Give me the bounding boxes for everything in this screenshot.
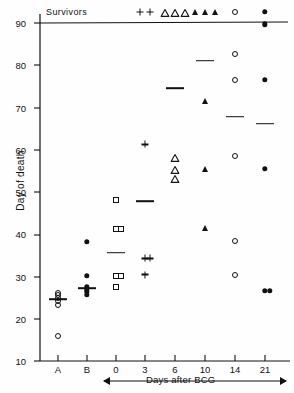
survivor-marker-6-1 — [171, 3, 180, 21]
y-tick-label: 70 — [2, 102, 26, 113]
data-point-A-5 — [55, 333, 61, 339]
y-tick-label: 20 — [2, 313, 26, 324]
data-point-0-5 — [113, 284, 119, 290]
y-tick-label: 10 — [2, 356, 26, 367]
data-point-14-4 — [232, 272, 238, 278]
data-point-0-2 — [118, 226, 124, 232]
figure-panel: Day of death 102030405060708090 AB036101… — [0, 0, 294, 393]
data-point-3-3 — [142, 271, 149, 278]
survivor-marker-6-0 — [161, 3, 170, 21]
median-bar-3 — [136, 200, 154, 202]
data-point-21-1 — [262, 77, 267, 82]
x-axis-title: Days after BCG — [146, 374, 215, 385]
survivors-divider-line — [40, 22, 288, 23]
data-point-14-1 — [232, 77, 238, 83]
x-tick-label-B: B — [84, 364, 90, 375]
data-point-10-0 — [202, 98, 208, 104]
survivor-marker-10-1 — [202, 9, 208, 15]
x-tick-label-14: 14 — [230, 364, 241, 375]
data-point-14-2 — [232, 153, 238, 159]
data-point-21-2 — [262, 166, 267, 171]
median-bar-14 — [226, 116, 244, 118]
median-bar-21 — [256, 123, 274, 125]
y-tick-label: 80 — [2, 60, 26, 71]
data-point-A-4 — [55, 302, 61, 308]
data-point-0-0 — [113, 197, 119, 203]
x-tick-label-21: 21 — [260, 364, 271, 375]
survivor-marker-10-0 — [192, 9, 198, 15]
y-tick-label: 90 — [2, 18, 26, 29]
survivors-label: Survivors — [46, 7, 87, 17]
data-point-3-2 — [147, 255, 154, 262]
survivor-marker-14-0 — [232, 9, 238, 15]
data-point-10-1 — [202, 166, 208, 172]
y-tick-label: 60 — [2, 144, 26, 155]
median-bar-0 — [107, 252, 125, 254]
survivor-marker-3-1 — [147, 9, 154, 16]
data-point-0-4 — [118, 273, 124, 279]
data-point-3-0 — [142, 141, 149, 148]
survivor-marker-6-2 — [181, 3, 190, 21]
data-point-B-0 — [84, 239, 89, 244]
y-tick-label: 50 — [2, 187, 26, 198]
median-bar-B — [78, 288, 96, 290]
y-tick-label: 30 — [2, 271, 26, 282]
data-point-B-5 — [84, 292, 89, 297]
x-tick-label-A: A — [55, 364, 61, 375]
data-point-21-4 — [267, 288, 272, 293]
data-point-B-1 — [84, 273, 89, 278]
survivor-marker-21-0 — [262, 9, 267, 14]
data-point-6-2 — [171, 169, 180, 187]
data-point-14-0 — [232, 51, 238, 57]
survivor-marker-10-2 — [212, 9, 218, 15]
data-point-21-0 — [262, 22, 267, 27]
y-tick-marks — [34, 23, 40, 361]
x-tick-label-0: 0 — [113, 364, 118, 375]
data-point-14-3 — [232, 238, 238, 244]
x-tick-marks — [58, 355, 265, 361]
median-bar-10 — [196, 60, 214, 62]
median-bar-6 — [166, 87, 184, 89]
survivor-marker-3-0 — [137, 9, 144, 16]
y-tick-label: 40 — [2, 229, 26, 240]
median-bar-A — [49, 299, 67, 301]
data-point-10-2 — [202, 225, 208, 231]
axes-svg — [0, 0, 294, 393]
